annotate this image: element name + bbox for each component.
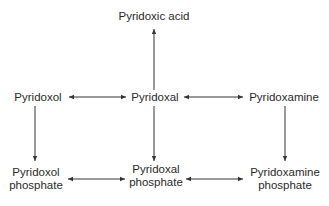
node-pyridoxamine-phosphate-line2: phosphate	[246, 179, 324, 192]
node-pyridoxol-phosphate: Pyridoxol phosphate	[6, 166, 66, 192]
node-pyridoxal: Pyridoxal	[128, 91, 182, 104]
node-pyridoxol-phosphate-line2: phosphate	[6, 179, 66, 192]
node-pyridoxamine-phosphate-line1: Pyridoxamine	[246, 166, 324, 179]
node-pyridoxal-phosphate-line1: Pyridoxal	[126, 163, 186, 176]
node-pyridoxol-phosphate-line1: Pyridoxol	[6, 166, 66, 179]
node-pyridoxamine-phosphate: Pyridoxamine phosphate	[246, 166, 324, 192]
node-pyridoxamine: Pyridoxamine	[246, 91, 322, 104]
node-pyridoxal-phosphate: Pyridoxal phosphate	[126, 163, 186, 189]
node-pyridoxic-acid: Pyridoxic acid	[114, 10, 194, 23]
node-pyridoxol: Pyridoxol	[10, 91, 66, 104]
node-pyridoxal-phosphate-line2: phosphate	[126, 176, 186, 189]
